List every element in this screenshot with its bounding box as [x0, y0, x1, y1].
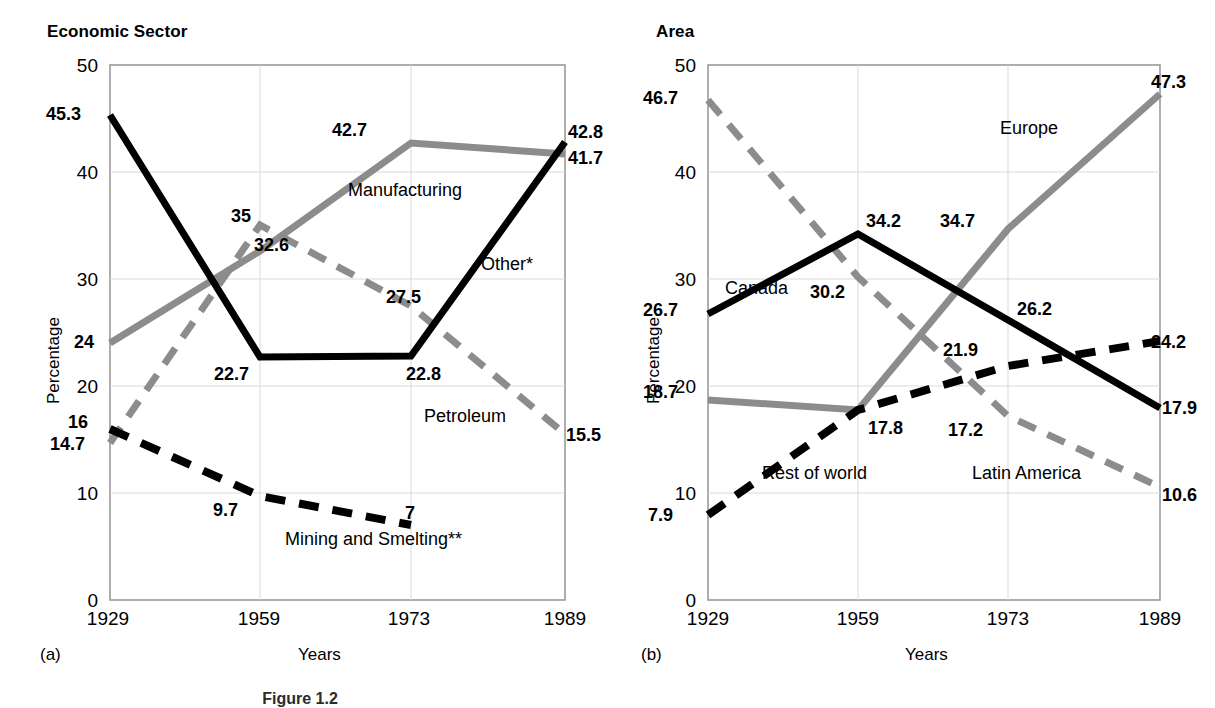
series-label-canada: Canada — [725, 278, 788, 299]
value-label-b-46-7: 46.7 — [643, 88, 678, 109]
series-label-mining-and-smelting: Mining and Smelting** — [285, 529, 462, 550]
value-label-b-47-3: 47.3 — [1151, 72, 1186, 93]
panel-b-plot-frame — [708, 65, 1160, 600]
panel-b-plot — [600, 0, 1215, 699]
series-label-petroleum: Petroleum — [424, 406, 506, 427]
value-label-a-24: 24 — [74, 332, 94, 353]
value-label-a-7: 7 — [405, 503, 415, 524]
value-label-a-14-7: 14.7 — [50, 434, 85, 455]
value-label-a-42-8: 42.8 — [568, 122, 603, 143]
series-label-europe: Europe — [1000, 118, 1058, 139]
panel-a-plot-frame — [110, 65, 565, 600]
value-label-a-32-6: 32.6 — [254, 235, 289, 256]
panel-b-gridlines-horizontal — [708, 172, 1160, 493]
value-label-a-22-8: 22.8 — [406, 364, 441, 385]
chart-panel-economic-sector: Economic Sector Percentage Years (a) 0 1… — [0, 0, 607, 699]
chart-panel-area: Area Percentage Years (b) 0 10 20 30 40 … — [600, 0, 1215, 699]
series-label-rest-of-world: Rest of world — [762, 463, 867, 484]
value-label-b-30-2: 30.2 — [810, 282, 845, 303]
value-label-b-34-7: 34.7 — [940, 211, 975, 232]
series-label-other: Other* — [481, 254, 533, 275]
value-label-b-10-6: 10.6 — [1162, 485, 1197, 506]
value-label-a-22-7: 22.7 — [214, 364, 249, 385]
value-label-a-15-5: 15.5 — [566, 425, 601, 446]
value-label-b-18-7: 18.7 — [643, 382, 678, 403]
series-line-europe — [708, 94, 1160, 410]
value-label-a-27-5: 27.5 — [386, 287, 421, 308]
value-label-a-35: 35 — [231, 206, 251, 227]
value-label-b-7-9: 7.9 — [648, 505, 673, 526]
value-label-a-42-7: 42.7 — [332, 120, 367, 141]
series-label-manufacturing: Manufacturing — [348, 180, 462, 201]
value-label-b-24-2: 24.2 — [1151, 332, 1186, 353]
figure-caption: Figure 1.2 — [0, 690, 600, 708]
panel-a-gridlines-vertical — [260, 65, 411, 600]
value-label-b-34-2: 34.2 — [866, 211, 901, 232]
value-label-a-41-7: 41.7 — [568, 148, 603, 169]
value-label-b-17-9: 17.9 — [1162, 398, 1197, 419]
value-label-b-26-2: 26.2 — [1017, 299, 1052, 320]
value-label-a-16: 16 — [68, 412, 88, 433]
value-label-a-9-7: 9.7 — [213, 500, 238, 521]
series-label-latin-america: Latin America — [972, 463, 1081, 484]
value-label-a-45-3: 45.3 — [46, 104, 81, 125]
value-label-b-26-7: 26.7 — [643, 300, 678, 321]
series-line-manufacturing — [110, 143, 565, 343]
value-label-b-17-2: 17.2 — [948, 420, 983, 441]
panel-b-gridlines-vertical — [858, 65, 1008, 600]
value-label-b-17-8: 17.8 — [868, 418, 903, 439]
value-label-b-21-9: 21.9 — [943, 340, 978, 361]
